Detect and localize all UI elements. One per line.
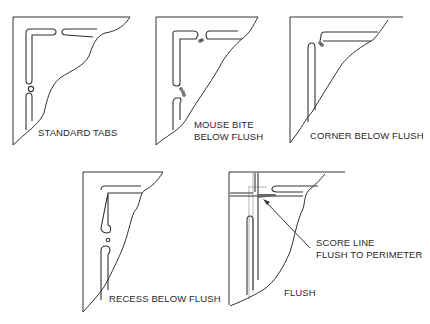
label-mouse-bite-line1: MOUSE BITE (194, 119, 254, 130)
standard-tabs-drawing (13, 17, 130, 145)
label-mouse-bite-line2: BELOW FLUSH (194, 131, 263, 142)
corner-below-flush-drawing (290, 17, 403, 143)
label-recess-below-flush: RECESS BELOW FLUSH (109, 293, 221, 304)
label-flush-to-perimeter: FLUSH TO PERIMETER (316, 249, 423, 260)
label-flush: FLUSH (284, 287, 316, 298)
label-score-line: SCORE LINE (316, 237, 375, 248)
label-corner-below-flush: CORNER BELOW FLUSH (310, 130, 424, 141)
recess-below-flush-drawing (83, 172, 163, 312)
label-standard-tabs: STANDARD TABS (38, 127, 117, 138)
panel-drawings (0, 0, 430, 324)
